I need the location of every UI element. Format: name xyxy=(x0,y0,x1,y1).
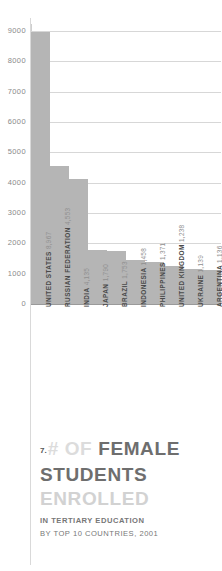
category-label: UNITED STATES 8,967 xyxy=(45,232,52,307)
gridline xyxy=(31,122,221,123)
gridline xyxy=(31,92,221,93)
title-line-3: ENROLLED xyxy=(40,487,218,511)
category-label: RUSSIAN FEDERATION 4,553 xyxy=(64,208,71,307)
gridline xyxy=(31,61,221,62)
subtitle-line-1: IN TERTIARY EDUCATION xyxy=(40,514,218,527)
y-tick-label: 5000 xyxy=(0,148,26,156)
y-tick-label: 2000 xyxy=(0,239,26,247)
category-label: PHILIPPINES 1,371 xyxy=(159,243,166,307)
title-part-2: FEMALE xyxy=(98,438,180,459)
category-label: INDIA 4,135 xyxy=(83,268,90,307)
y-tick-label: 3000 xyxy=(0,209,26,217)
y-tick-label: 4000 xyxy=(0,179,26,187)
title-line-2: STUDENTS xyxy=(40,463,218,487)
title-line-1: 7.# OF FEMALE xyxy=(40,437,218,463)
chart-caption: 7.# OF FEMALE STUDENTS ENROLLED IN TERTI… xyxy=(40,437,218,540)
y-tick-label: 0 xyxy=(0,300,26,308)
y-tick-label: 8000 xyxy=(0,57,26,65)
y-tick-label: 6000 xyxy=(0,118,26,126)
bar-chart: 9000800070006000500040003000200010000 UN… xyxy=(0,0,222,400)
category-label: UNITED KINGDOM 1,238 xyxy=(178,225,185,307)
category-label: ARGENTINA 1,136 xyxy=(216,245,222,307)
gridline xyxy=(31,31,221,32)
figure-number: 7. xyxy=(40,446,47,455)
category-label: UKRAINE 1,139 xyxy=(197,255,204,307)
y-tick-label: 1000 xyxy=(0,270,26,278)
category-label: BRAZIL 1,753 xyxy=(121,261,128,307)
title-part-1: # OF xyxy=(48,438,93,459)
y-tick-label: 7000 xyxy=(0,88,26,96)
y-tick-label: 9000 xyxy=(0,27,26,35)
category-label: INDONESIA 1,458 xyxy=(140,248,147,307)
category-label: JAPAN 1,790 xyxy=(102,264,109,307)
gridline xyxy=(31,152,221,153)
subtitle-line-2: BY TOP 10 COUNTRIES, 2001 xyxy=(40,527,218,540)
